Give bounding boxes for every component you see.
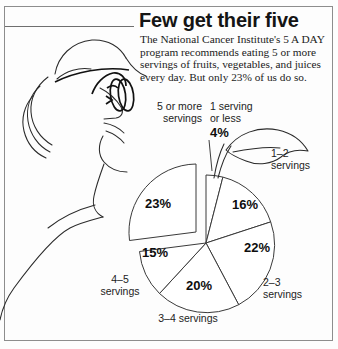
infographic-panel: Few get their five The National Cancer I… — [0, 0, 338, 349]
pie-value-1-2-servings: 16% — [232, 197, 258, 212]
pie-value-4-5-servings: 15% — [142, 245, 168, 260]
pie-label-5-or-more-servings: 5 or more servings — [130, 101, 202, 124]
pie-label-3-4-servings: 3–4 servings — [136, 313, 240, 325]
pie-value-3-4-servings: 20% — [186, 278, 212, 293]
pie-value-1-serving-or-less: 4% — [210, 125, 229, 140]
pie-label-1-2-servings: 1–2 servings — [271, 148, 331, 171]
pie-label-2-3-servings: 2–3 servings — [263, 277, 329, 300]
pie-value-2-3-servings: 22% — [244, 240, 270, 255]
pie-label-1-serving-or-less: 1 serving or less — [210, 101, 274, 124]
pie-value-5-or-more-servings: 23% — [145, 196, 171, 211]
leader-line-4-percent — [209, 140, 212, 171]
pie-label-4-5-servings: 4–5 servings — [90, 274, 150, 297]
